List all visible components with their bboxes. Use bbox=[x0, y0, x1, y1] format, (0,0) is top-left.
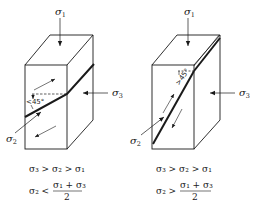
right-fault-trace-top bbox=[194, 38, 220, 71]
right-sigma1-label: σ1 bbox=[184, 6, 195, 19]
left-sigma2-label: σ2 bbox=[6, 133, 17, 146]
left-panel: <45° σ1 σ3 σ2 σ₃ > σ₂ > σ₁ σ₂ < σ₁ + σ₃ … bbox=[6, 6, 123, 202]
right-relation-2-lhs: σ₂ > bbox=[156, 186, 176, 196]
left-fault-plane bbox=[25, 64, 94, 117]
left-relation-2-lhs: σ₂ < bbox=[29, 186, 49, 196]
right-angle-label: >45° bbox=[174, 67, 191, 87]
right-sigma3-label: σ3 bbox=[239, 87, 250, 100]
fault-stress-diagram: <45° σ1 σ3 σ2 σ₃ > σ₂ > σ₁ σ₂ < σ₁ + σ₃ … bbox=[0, 0, 261, 204]
left-relation-2-numerator: σ₁ + σ₃ bbox=[53, 180, 86, 190]
right-relation-2-denominator: 2 bbox=[192, 192, 198, 202]
left-block bbox=[25, 35, 93, 149]
right-relation-1: σ₃ > σ₂ > σ₁ bbox=[156, 164, 212, 174]
left-relation-2-denominator: 2 bbox=[64, 192, 70, 202]
left-sigma3-label: σ3 bbox=[112, 87, 123, 100]
left-slip-arrow-lower bbox=[35, 126, 56, 137]
left-angle-label: <45° bbox=[26, 98, 44, 106]
left-sigma1-label: σ1 bbox=[55, 6, 66, 19]
right-panel: >45° σ1 σ3 σ2 σ₃ > σ₂ > σ₁ σ₂ > σ₁ + σ₃ … bbox=[130, 6, 250, 202]
right-sigma2-label: σ2 bbox=[130, 135, 141, 148]
left-slip-arrow-upper bbox=[34, 79, 55, 90]
left-relation-1: σ₃ > σ₂ > σ₁ bbox=[29, 164, 85, 174]
right-slip-arrow-lower bbox=[172, 109, 182, 128]
right-relation-2-numerator: σ₁ + σ₃ bbox=[180, 180, 213, 190]
